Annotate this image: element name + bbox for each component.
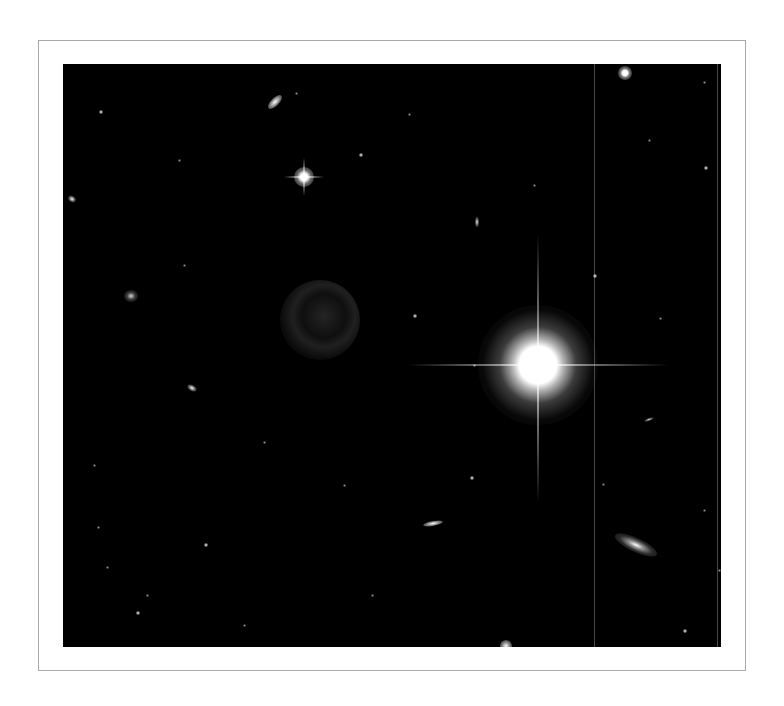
faint-star xyxy=(146,594,149,597)
faint-star xyxy=(343,484,346,487)
faint-star xyxy=(93,464,96,467)
faint-star xyxy=(704,166,708,170)
faint-star xyxy=(659,317,662,320)
faint-star xyxy=(703,509,706,512)
edge-on-galaxy xyxy=(423,519,444,527)
faint-star xyxy=(99,110,103,114)
faint-star xyxy=(593,274,597,278)
faint-star xyxy=(371,594,374,597)
faint-star xyxy=(263,441,266,444)
galaxy xyxy=(644,416,654,422)
faint-star xyxy=(533,184,536,187)
faint-star xyxy=(295,92,298,95)
ghost-ring xyxy=(280,280,360,360)
faint-star xyxy=(408,113,411,116)
star xyxy=(294,167,314,187)
faint-star xyxy=(106,566,109,569)
faint-star xyxy=(97,526,100,529)
faint-star xyxy=(683,629,687,633)
faint-star xyxy=(359,153,363,157)
galaxy xyxy=(186,383,198,393)
star xyxy=(500,640,512,647)
faint-star xyxy=(183,264,186,267)
faint-star xyxy=(243,624,246,627)
astronomical-image xyxy=(63,64,721,647)
star xyxy=(618,66,632,80)
faint-star xyxy=(178,159,181,162)
faint-star xyxy=(473,364,476,367)
faint-star xyxy=(648,139,651,142)
galaxy xyxy=(124,290,138,302)
faint-star xyxy=(602,483,605,486)
galaxy xyxy=(266,93,284,111)
faint-star xyxy=(470,476,474,480)
faint-star xyxy=(703,81,706,84)
detector-artifact-line xyxy=(717,64,718,647)
faint-star xyxy=(204,543,208,547)
spiral-galaxy xyxy=(612,529,660,561)
galaxy xyxy=(67,194,77,203)
galaxy xyxy=(475,217,479,227)
faint-star xyxy=(413,314,417,318)
faint-star xyxy=(718,569,721,572)
faint-star xyxy=(136,611,140,615)
bright-star xyxy=(478,305,598,425)
